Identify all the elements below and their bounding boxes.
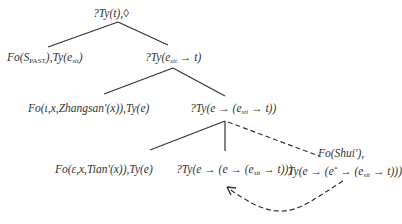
node-fo-past: Fo(SPAST),Ty(esit) — [7, 50, 83, 68]
edge-tyeesit-shui-dashed — [228, 122, 319, 156]
node-ty-e-e-esit-t: ?Ty(e → (e → (esit → t))) — [176, 162, 292, 180]
node-tian: Fo(ε,x,Tian'(x)),Ty(e) — [55, 162, 153, 176]
node-zhangsan: Fo(ι,x,Zhangsan'(x)),Ty(e) — [28, 101, 149, 115]
node-shui-ty: Ty(e → (e* → (esit → t))) — [288, 162, 402, 182]
node-ty-e-esit-t: ?Ty(e → (esit → t)) — [190, 101, 276, 119]
node-ty-esit-t: ?Ty(esit → t) — [145, 50, 201, 68]
edge-tyesit-tyeesit — [173, 68, 225, 96]
edge-root-fopast — [48, 22, 118, 47]
edge-shui-back-arrow — [228, 181, 343, 211]
edge-tyesit-zhangsan — [104, 68, 173, 94]
edge-tyeesit-tian — [150, 121, 225, 150]
node-root: ?Ty(t),◊ — [93, 6, 129, 20]
node-shui-fo: Fo(Shui'), — [318, 146, 364, 160]
edge-root-tyesit — [118, 22, 168, 45]
